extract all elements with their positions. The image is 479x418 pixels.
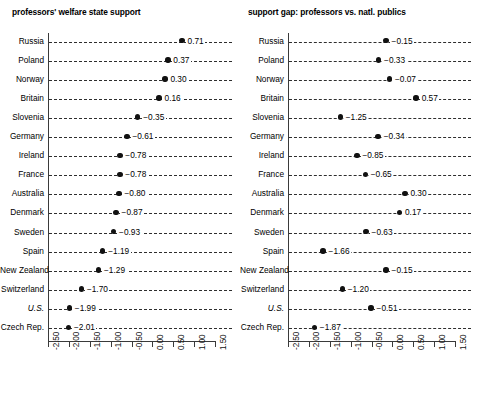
x-axis-tick-label: 1.50 — [459, 334, 468, 350]
plot-row: New Zealand−0.15 — [240, 262, 479, 281]
category-label: Slovenia — [240, 112, 284, 122]
data-point — [363, 229, 368, 234]
data-point — [354, 153, 359, 158]
data-value-label: −0.07 — [393, 74, 417, 84]
category-label: Germany — [0, 131, 44, 141]
category-label: Australia — [240, 188, 284, 198]
data-value-label: −0.93 — [118, 227, 142, 237]
plot-area: Russia−0.15Poland−0.33Norway−0.07Britain… — [240, 33, 479, 358]
leader-line — [289, 118, 471, 119]
category-label: Czech Rep. — [0, 322, 44, 332]
data-point — [96, 267, 101, 272]
category-label: Norway — [240, 74, 284, 84]
x-axis-tick — [372, 342, 373, 347]
plot-row: Ireland−0.78 — [0, 147, 239, 166]
leader-line — [289, 194, 471, 195]
x-axis-tick-label: -1.00 — [114, 332, 123, 350]
data-value-label: −1.19 — [107, 246, 131, 256]
plot-row: Norway0.30 — [0, 71, 239, 90]
x-axis-tick — [132, 342, 133, 347]
category-label: Slovenia — [0, 112, 44, 122]
data-value-label: 0.17 — [403, 207, 422, 217]
data-point — [116, 191, 121, 196]
data-point — [312, 325, 317, 330]
data-value-label: −0.85 — [361, 150, 385, 160]
x-axis-tick — [309, 342, 310, 347]
data-point — [135, 114, 140, 119]
data-value-label: −1.66 — [327, 246, 351, 256]
data-value-label: −0.35 — [142, 112, 166, 122]
data-value-label: −0.33 — [383, 55, 407, 65]
data-point — [67, 305, 72, 310]
category-label: Norway — [0, 74, 44, 84]
x-axis-tick — [69, 342, 70, 347]
x-axis-tick-label: -2.00 — [72, 332, 81, 350]
x-axis-tick — [330, 342, 331, 347]
plot-area: Russia0.71Poland0.37Norway0.30Britain0.1… — [0, 33, 239, 358]
x-axis-tick-label: -1.50 — [333, 332, 342, 350]
category-label: Poland — [240, 55, 284, 65]
data-value-label: −0.15 — [390, 36, 414, 46]
category-label: New Zealand — [0, 265, 44, 275]
data-point — [363, 172, 368, 177]
plot-row: Germany−0.34 — [240, 128, 479, 147]
x-axis-tick — [434, 342, 435, 347]
plot-row: Sweden−0.63 — [240, 224, 479, 243]
data-value-label: −0.15 — [390, 265, 414, 275]
category-label: New Zealand — [240, 265, 284, 275]
x-axis-tick — [288, 342, 289, 347]
data-value-label: −1.29 — [103, 265, 127, 275]
x-axis-tick-label: -1.50 — [93, 332, 102, 350]
x-axis-tick — [90, 342, 91, 347]
data-point — [162, 76, 167, 81]
leader-line — [289, 42, 471, 43]
panel-title: support gap: professors vs. natl. public… — [248, 7, 406, 17]
data-value-label: −0.51 — [375, 303, 399, 313]
data-point — [100, 248, 105, 253]
x-axis-tick — [48, 342, 49, 347]
plot-row: Russia−0.15 — [240, 33, 479, 52]
category-label: France — [240, 169, 284, 179]
x-axis-tick — [351, 342, 352, 347]
x-axis-tick — [152, 342, 153, 347]
data-value-label: −0.65 — [369, 169, 393, 179]
x-axis-tick-label: -0.50 — [375, 332, 384, 350]
panel-title: professors' welfare state support — [12, 7, 141, 17]
data-point — [397, 210, 402, 215]
category-label: Ireland — [0, 150, 44, 160]
plot-row: Switzerland−1.20 — [240, 281, 479, 300]
data-value-label: −1.99 — [73, 303, 97, 313]
data-point — [113, 210, 118, 215]
category-label: Switzerland — [0, 284, 44, 294]
category-label: Sweden — [0, 227, 44, 237]
data-point — [376, 57, 381, 62]
data-value-label: 0.30 — [169, 74, 188, 84]
figure-canvas: professors' welfare state support Russia… — [0, 0, 479, 418]
x-axis-tick — [413, 342, 414, 347]
plot-row: France−0.65 — [240, 166, 479, 185]
category-label: Denmark — [240, 207, 284, 217]
x-axis-tick-label: 1.50 — [219, 334, 228, 350]
plot-row: Ireland−0.85 — [240, 147, 479, 166]
category-label: Switzerland — [240, 284, 284, 294]
plot-row: Norway−0.07 — [240, 71, 479, 90]
data-value-label: 0.71 — [186, 36, 205, 46]
data-value-label: 0.30 — [409, 188, 428, 198]
leader-line — [49, 271, 232, 272]
x-axis-tick-label: -1.00 — [354, 332, 363, 350]
data-value-label: −1.87 — [318, 322, 342, 332]
category-label: Russia — [240, 36, 284, 46]
plot-row: France−0.78 — [0, 166, 239, 185]
x-axis-tick-label: -2.00 — [312, 332, 321, 350]
category-label: Sweden — [240, 227, 284, 237]
plot-row: U.S.−1.99 — [0, 300, 239, 319]
data-value-label: −1.25 — [344, 112, 368, 122]
data-value-label: 0.37 — [172, 55, 191, 65]
data-point — [156, 95, 161, 100]
data-value-label: −0.78 — [124, 169, 148, 179]
x-axis-tick-label: -2.50 — [292, 332, 301, 350]
category-label: Ireland — [240, 150, 284, 160]
leader-line — [289, 271, 471, 272]
category-label: France — [0, 169, 44, 179]
plot-row: New Zealand−1.29 — [0, 262, 239, 281]
